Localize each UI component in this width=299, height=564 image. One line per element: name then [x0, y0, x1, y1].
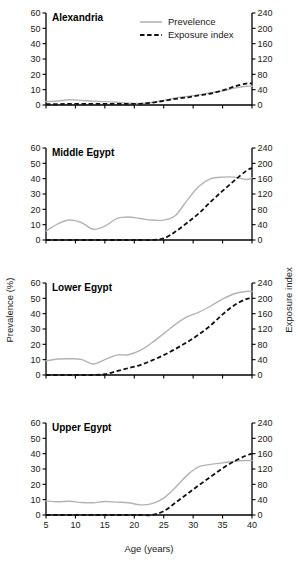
multi-panel-line-chart: 010203040506004080120160200240Alexandria…: [0, 0, 299, 564]
right-tick-label: 200: [258, 294, 273, 304]
x-tick-label: 10: [70, 520, 80, 530]
right-tick-label: 0: [258, 370, 263, 380]
right-tick-label: 160: [258, 39, 273, 49]
left-tick-label: 30: [30, 54, 40, 64]
legend-label-exposure: Exposure index: [168, 29, 234, 40]
left-tick-label: 40: [30, 449, 40, 459]
legend: PrevelenceExposure index: [140, 16, 234, 40]
x-axis-title: Age (years): [124, 543, 173, 554]
x-tick-label: 5: [43, 520, 48, 530]
left-tick-label: 40: [30, 174, 40, 184]
series-line-exposure-index: [46, 168, 252, 240]
panel-upper-egypt: 0102030405060040801201602002405101520253…: [30, 418, 272, 530]
left-tick-label: 20: [30, 480, 40, 490]
left-tick-label: 60: [30, 143, 40, 153]
left-tick-label: 10: [30, 495, 40, 505]
series-line-exposure-index: [46, 83, 252, 104]
right-tick-label: 40: [258, 495, 268, 505]
left-tick-label: 30: [30, 464, 40, 474]
left-tick-label: 0: [35, 235, 40, 245]
y-axis-title-left: Prevalence (%): [4, 278, 15, 343]
left-tick-label: 50: [30, 159, 40, 169]
left-tick-label: 40: [30, 39, 40, 49]
left-tick-label: 10: [30, 85, 40, 95]
x-tick-label: 40: [247, 520, 257, 530]
right-tick-label: 240: [258, 8, 273, 18]
left-tick-label: 30: [30, 324, 40, 334]
left-tick-label: 40: [30, 309, 40, 319]
right-tick-label: 240: [258, 418, 273, 428]
right-tick-label: 200: [258, 159, 273, 169]
right-tick-label: 0: [258, 510, 263, 520]
series-line-exposure-index: [46, 298, 252, 375]
x-tick-label: 20: [129, 520, 139, 530]
right-tick-label: 120: [258, 54, 273, 64]
x-tick-label: 35: [218, 520, 228, 530]
right-tick-label: 0: [258, 235, 263, 245]
right-tick-label: 40: [258, 355, 268, 365]
panel-lower-egypt: 010203040506004080120160200240Lower Egyp…: [30, 278, 272, 380]
left-tick-label: 50: [30, 24, 40, 34]
left-tick-label: 20: [30, 70, 40, 80]
left-tick-label: 20: [30, 340, 40, 350]
left-tick-label: 20: [30, 205, 40, 215]
right-tick-label: 80: [258, 340, 268, 350]
panel-title: Upper Egypt: [52, 422, 112, 433]
right-tick-label: 40: [258, 85, 268, 95]
left-tick-label: 50: [30, 294, 40, 304]
right-tick-label: 160: [258, 449, 273, 459]
right-tick-label: 120: [258, 189, 273, 199]
right-tick-label: 80: [258, 480, 268, 490]
x-tick-label: 15: [100, 520, 110, 530]
series-line-prevelence: [46, 291, 252, 364]
right-tick-label: 160: [258, 309, 273, 319]
right-tick-label: 120: [258, 464, 273, 474]
series-line-prevelence: [46, 177, 252, 231]
right-tick-label: 80: [258, 205, 268, 215]
x-tick-label: 25: [159, 520, 169, 530]
right-tick-label: 0: [258, 100, 263, 110]
panel-title: Lower Egypt: [52, 282, 113, 293]
right-tick-label: 120: [258, 324, 273, 334]
y-axis-title-right: Exposure index: [283, 267, 294, 333]
panel-title: Middle Egypt: [52, 147, 115, 158]
right-tick-label: 240: [258, 143, 273, 153]
left-tick-label: 60: [30, 8, 40, 18]
left-tick-label: 50: [30, 434, 40, 444]
left-tick-label: 30: [30, 189, 40, 199]
right-tick-label: 200: [258, 434, 273, 444]
series-line-prevelence: [46, 86, 252, 103]
left-tick-label: 10: [30, 220, 40, 230]
x-tick-label: 30: [188, 520, 198, 530]
right-tick-label: 80: [258, 70, 268, 80]
series-line-prevelence: [46, 461, 252, 505]
left-tick-label: 10: [30, 355, 40, 365]
left-tick-label: 0: [35, 370, 40, 380]
panel-middle-egypt: 010203040506004080120160200240Middle Egy…: [30, 143, 272, 245]
left-tick-label: 60: [30, 278, 40, 288]
legend-label-prevalence: Prevelence: [168, 16, 216, 27]
figure-container: 010203040506004080120160200240Alexandria…: [0, 0, 299, 564]
left-tick-label: 60: [30, 418, 40, 428]
right-tick-label: 40: [258, 220, 268, 230]
panel-title: Alexandria: [52, 12, 104, 23]
panel-alexandria: 010203040506004080120160200240Alexandria: [30, 8, 272, 110]
left-tick-label: 0: [35, 510, 40, 520]
right-tick-label: 240: [258, 278, 273, 288]
left-tick-label: 0: [35, 100, 40, 110]
right-tick-label: 200: [258, 24, 273, 34]
right-tick-label: 160: [258, 174, 273, 184]
